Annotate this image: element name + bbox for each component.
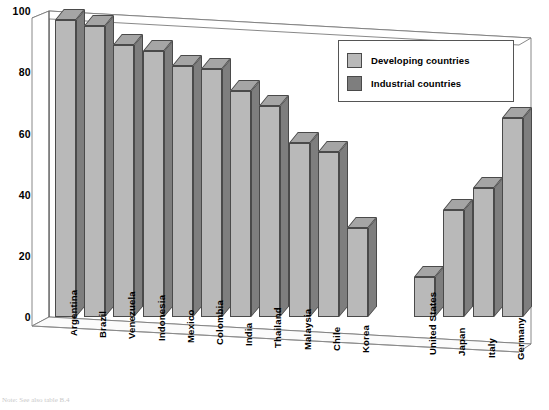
bar-front-face [84,26,105,317]
x-axis-label: India [243,323,254,346]
bar-front-face [172,66,193,317]
legend-label-developing: Developing countries [371,55,470,66]
bar-thailand [259,95,289,317]
bar-colombia [201,58,231,317]
legend-swatch-developing-icon [347,53,362,68]
x-axis-label: Argentina [68,290,79,336]
bar-front-face [143,51,164,317]
bar-malaysia [289,132,319,317]
chart-container: 0 20 40 60 80 100 ArgentinaBrazilVenezue… [0,0,549,410]
x-axis-label: Italy [486,338,497,358]
bar-front-face [443,210,464,317]
bar-front-face [230,91,251,317]
x-axis-label: Chile [331,327,342,351]
x-axis-label: Mexico [185,309,196,342]
bar-side-face [368,218,377,317]
x-axis-label: Germany [515,317,526,360]
bar-front-face [201,69,222,317]
bar-front-face [55,20,76,317]
bar-front-face [473,188,494,317]
bar-chile [318,141,348,317]
bar-korea [347,217,377,317]
bar-italy [473,177,503,317]
bar-indonesia [143,40,173,317]
bar-mexico [172,55,202,317]
x-axis-label: Thailand [272,307,283,348]
legend-entry-industrial: Industrial countries [347,72,513,95]
bar-front-face [259,106,280,317]
legend-entry-developing: Developing countries [347,49,513,72]
x-axis-label: United States [427,291,438,354]
x-axis-label: Korea [360,325,371,353]
x-axis-label: Colombia [214,300,225,345]
bar-front-face [502,118,523,317]
legend-swatch-industrial-icon [347,76,362,91]
bar-front-face [113,45,134,317]
legend-label-industrial: Industrial countries [371,78,461,89]
bar-front-face [289,143,310,317]
bar-front-face [318,152,339,317]
bar-brazil [84,15,114,317]
bar-side-face [523,107,532,317]
x-axis-label: Japan [456,328,467,356]
x-axis-label: Indonesia [156,295,167,341]
x-axis-label: Venezuela [126,292,137,340]
legend: Developing countries Industrial countrie… [338,40,514,102]
bar-japan [443,199,473,317]
bar-front-face [347,228,368,317]
bar-germany [502,107,532,317]
figure-caption: Note: See also table B.4 [2,396,69,404]
x-axis-label: Brazil [97,311,108,338]
bar-argentina [55,9,85,317]
bar-india [230,80,260,317]
x-axis-label: Malaysia [302,308,313,349]
bar-venezuela [113,34,143,317]
